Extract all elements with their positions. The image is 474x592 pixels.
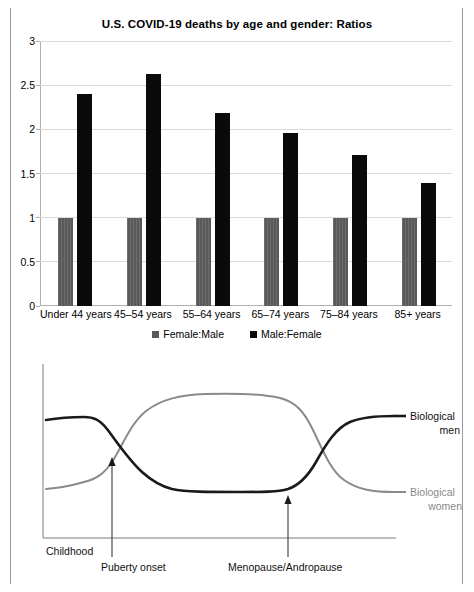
legend-swatch-male-female-icon [250, 331, 257, 338]
biological-men-curve [46, 416, 394, 492]
bar-group [41, 41, 110, 306]
biological-men-label-line2: men [440, 424, 461, 436]
y-tick-mark [36, 85, 40, 86]
annotation-childhood-label: Childhood [46, 545, 93, 557]
y-tick-mark [36, 173, 40, 174]
y-tick-mark [36, 41, 40, 42]
y-tick-mark [36, 217, 40, 218]
bar-chart-legend: Female:Male Male:Female [0, 328, 474, 340]
x-tick-label: 65–74 years [246, 308, 315, 320]
bar-male-female [283, 133, 298, 306]
bar-female-male [333, 218, 348, 306]
annotation-puberty-onset-label: Puberty onset [101, 561, 166, 573]
y-tick-label: 1 [1, 213, 35, 223]
x-tick-label: 85+ years [383, 308, 452, 320]
bar-male-female [215, 113, 230, 306]
y-tick-mark [36, 306, 40, 307]
bar-male-female [146, 74, 161, 306]
y-tick-label: 0.5 [1, 257, 35, 267]
bar-group [384, 41, 453, 306]
x-tick-label: Under 44 years [40, 308, 109, 320]
asthma-chart-svg: Biological men Biological women Childhoo… [0, 352, 474, 592]
y-tick-label: 3 [1, 36, 35, 46]
y-tick-label: 2 [1, 124, 35, 134]
biological-women-label-line2: women [427, 500, 462, 512]
annotation-menopause-andropause-label: Menopause/Andropause [228, 561, 343, 573]
y-tick-label: 2.5 [1, 80, 35, 90]
bar-group [178, 41, 247, 306]
bar-male-female [421, 183, 436, 306]
bar-female-male [402, 218, 417, 306]
bar-chart-x-tick-labels: Under 44 years45–54 years55–64 years65–7… [40, 308, 452, 324]
legend-label-male-female: Male:Female [261, 328, 322, 340]
bar-female-male [58, 218, 73, 306]
y-tick-mark [36, 261, 40, 262]
covid-ratio-bar-chart: U.S. COVID-19 deaths by age and gender: … [0, 0, 474, 352]
bar-chart-plot-area: 00.511.522.53 [40, 41, 452, 306]
bar-male-female [77, 94, 92, 306]
bar-male-female [352, 155, 367, 306]
x-tick-label: 45–54 years [109, 308, 178, 320]
x-tick-label: 55–64 years [177, 308, 246, 320]
bar-female-male [196, 218, 211, 306]
y-tick-label: 1.5 [1, 169, 35, 179]
biological-women-label-line1: Biological [410, 486, 455, 498]
bar-female-male [127, 218, 142, 306]
biological-women-curve [46, 394, 394, 492]
bar-female-male [264, 218, 279, 306]
legend-item-male-female: Male:Female [250, 328, 322, 340]
y-tick-mark [36, 129, 40, 130]
bar-group [110, 41, 179, 306]
bar-group [316, 41, 385, 306]
y-tick-label: 0 [1, 301, 35, 311]
legend-label-female-male: Female:Male [163, 328, 224, 340]
legend-swatch-female-male-icon [152, 331, 159, 338]
asthma-severity-line-chart: Biological men Biological women Childhoo… [0, 352, 474, 592]
bar-chart-title: U.S. COVID-19 deaths by age and gender: … [0, 18, 474, 30]
menopause-andropause-arrow-head-icon [284, 495, 291, 504]
chart-page: U.S. COVID-19 deaths by age and gender: … [0, 0, 474, 592]
bar-group [247, 41, 316, 306]
x-tick-label: 75–84 years [315, 308, 384, 320]
bar-chart-bars [41, 41, 452, 306]
biological-men-label-line1: Biological [410, 410, 455, 422]
legend-item-female-male: Female:Male [152, 328, 224, 340]
